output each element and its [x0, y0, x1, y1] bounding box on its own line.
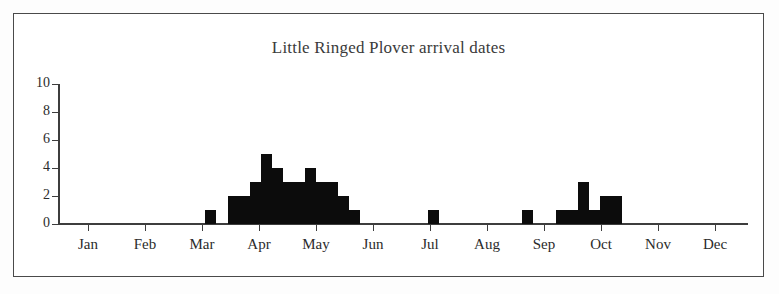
- y-tick-mark: [52, 140, 59, 141]
- x-tick-mark: [487, 225, 488, 231]
- bar: [567, 210, 578, 224]
- x-tick-mark: [316, 225, 317, 231]
- x-tick-label-oct: Oct: [571, 236, 631, 253]
- x-tick-label-feb: Feb: [115, 236, 175, 253]
- x-tick-label-jun: Jun: [343, 236, 403, 253]
- x-tick-mark: [715, 225, 716, 231]
- x-tick-mark: [430, 225, 431, 231]
- y-tick-label-wrap: 8: [20, 112, 50, 113]
- bar: [589, 210, 600, 224]
- y-tick-label: 8: [28, 104, 50, 118]
- bar: [283, 182, 294, 224]
- x-tick-mark: [202, 225, 203, 231]
- y-tick-label: 0: [28, 216, 50, 230]
- x-tick-mark: [373, 225, 374, 231]
- bar: [578, 182, 589, 224]
- x-tick-label-dec: Dec: [685, 236, 745, 253]
- bar: [228, 196, 239, 224]
- x-tick-mark: [658, 225, 659, 231]
- x-tick-mark: [259, 225, 260, 231]
- bar: [294, 182, 305, 224]
- x-tick-label-aug: Aug: [457, 236, 517, 253]
- x-tick-label-sep: Sep: [514, 236, 574, 253]
- y-tick-label-wrap: 2: [20, 196, 50, 197]
- chart-screenshot: Little Ringed Plover arrival dates 02468…: [0, 0, 779, 294]
- bar: [327, 182, 338, 224]
- x-tick-mark: [601, 225, 602, 231]
- y-tick-label-wrap: 6: [20, 140, 50, 141]
- bar: [428, 210, 439, 224]
- x-tick-label-jan: Jan: [58, 236, 118, 253]
- y-tick-mark: [52, 224, 59, 225]
- bar: [272, 168, 283, 224]
- x-axis-line: [58, 223, 748, 225]
- bar: [250, 182, 261, 224]
- x-tick-label-apr: Apr: [229, 236, 289, 253]
- bar: [522, 210, 533, 224]
- bar: [205, 210, 216, 224]
- y-tick-mark: [52, 112, 59, 113]
- y-tick-label: 2: [28, 188, 50, 202]
- y-tick-mark: [52, 84, 59, 85]
- y-tick-label: 10: [28, 76, 50, 90]
- y-axis-line: [58, 84, 60, 225]
- y-tick-label: 4: [28, 160, 50, 174]
- bar: [338, 196, 349, 224]
- bar: [600, 196, 611, 224]
- bar: [239, 196, 250, 224]
- y-tick-label: 6: [28, 132, 50, 146]
- x-tick-label-mar: Mar: [172, 236, 232, 253]
- x-tick-label-nov: Nov: [628, 236, 688, 253]
- x-tick-mark: [544, 225, 545, 231]
- x-tick-mark: [145, 225, 146, 231]
- y-tick-label-wrap: 4: [20, 168, 50, 169]
- bar: [349, 210, 360, 224]
- y-tick-label-wrap: 0: [20, 224, 50, 225]
- plot-area: 0246810 JanFebMarAprMayJunJulAugSepOctNo…: [0, 0, 779, 294]
- x-tick-mark: [88, 225, 89, 231]
- bar: [305, 168, 316, 224]
- x-tick-label-may: May: [286, 236, 346, 253]
- bar: [316, 182, 327, 224]
- y-tick-label-wrap: 10: [20, 84, 50, 85]
- bar: [556, 210, 567, 224]
- bar: [611, 196, 622, 224]
- y-tick-mark: [52, 196, 59, 197]
- bar: [261, 154, 272, 224]
- y-tick-mark: [52, 168, 59, 169]
- x-tick-label-jul: Jul: [400, 236, 460, 253]
